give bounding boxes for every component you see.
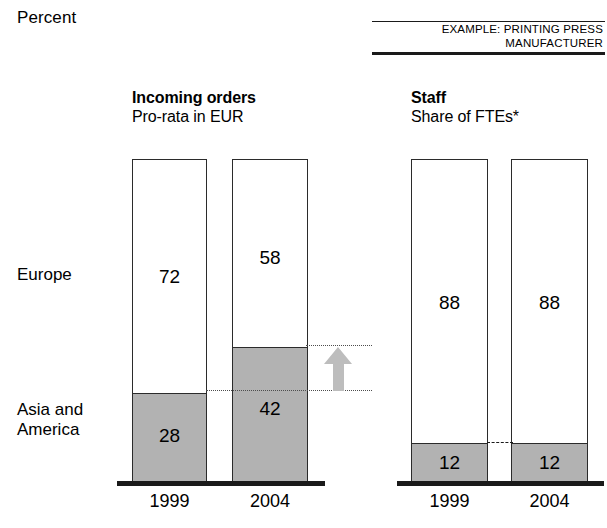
- panel-title-staff: Staff Share of FTEs*: [411, 88, 519, 126]
- segment-staff-1999-asia[interactable]: 12: [412, 443, 487, 483]
- bar-staff-2004[interactable]: 88 12: [511, 159, 588, 484]
- panel-title-incoming-orders: Incoming orders Pro-rata in EUR: [132, 88, 256, 126]
- example-callout-line-2: MANUFACTURER: [372, 37, 603, 51]
- value-staff-1999-asia: 12: [412, 452, 487, 474]
- panel-title-incoming-orders-main: Incoming orders: [132, 88, 256, 107]
- segment-orders-2004-asia[interactable]: 42: [233, 347, 307, 483]
- x-label-staff-1999: 1999: [411, 491, 488, 512]
- staff-equality-connector: [487, 442, 513, 443]
- segment-staff-2004-asia[interactable]: 12: [512, 443, 587, 483]
- x-label-staff-2004: 2004: [511, 491, 588, 512]
- panel-title-staff-main: Staff: [411, 88, 519, 107]
- row-label-asia-and-america: Asia and America: [17, 400, 83, 440]
- value-staff-1999-europe: 88: [412, 292, 487, 314]
- row-label-europe: Europe: [17, 265, 72, 285]
- value-orders-2004-europe: 58: [233, 247, 307, 269]
- x-label-orders-1999: 1999: [132, 491, 207, 512]
- bar-orders-1999[interactable]: 72 28: [132, 159, 207, 484]
- value-staff-2004-europe: 88: [512, 292, 587, 314]
- bar-orders-2004[interactable]: 58 42: [232, 159, 308, 484]
- value-orders-1999-asia: 28: [133, 425, 206, 447]
- example-callout-line-1: EXAMPLE: PRINTING PRESS: [372, 23, 603, 37]
- bar-staff-1999[interactable]: 88 12: [411, 159, 488, 484]
- panel-title-incoming-orders-sub: Pro-rata in EUR: [132, 107, 256, 126]
- growth-arrow-shaft: [333, 362, 344, 391]
- panel-title-staff-sub: Share of FTEs*: [411, 107, 519, 126]
- baseline-incoming-orders: [117, 481, 325, 486]
- leader-line-top: [306, 345, 372, 346]
- growth-arrow-icon: [324, 347, 352, 391]
- value-orders-2004-asia: 42: [233, 398, 307, 420]
- example-callout-box: EXAMPLE: PRINTING PRESS MANUFACTURER: [372, 21, 605, 55]
- segment-orders-1999-asia[interactable]: 28: [133, 393, 206, 483]
- value-orders-1999-europe: 72: [133, 266, 206, 288]
- row-label-asia-line-1: Asia and: [17, 400, 83, 420]
- value-staff-2004-asia: 12: [512, 452, 587, 474]
- x-label-orders-2004: 2004: [232, 491, 308, 512]
- baseline-staff: [397, 481, 604, 486]
- unit-label: Percent: [17, 8, 76, 28]
- row-label-asia-line-2: America: [17, 420, 83, 440]
